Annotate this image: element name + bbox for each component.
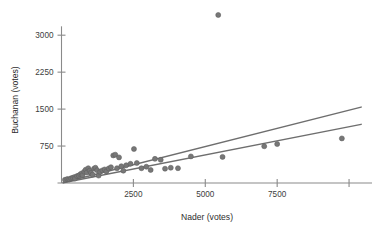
data-point xyxy=(220,154,225,159)
data-point xyxy=(216,12,221,17)
y-tick-label: 3000 xyxy=(35,31,54,40)
x-tick-label: 5000 xyxy=(196,190,215,199)
y-axis-title: Buchanan (votes) xyxy=(10,66,20,133)
data-point xyxy=(134,161,139,166)
x-axis-title: Nader (votes) xyxy=(181,212,233,222)
x-tick-label: 2500 xyxy=(124,190,143,199)
data-point xyxy=(148,167,153,172)
data-point xyxy=(144,164,149,169)
x-axis-ticks: 250050007500 xyxy=(124,179,349,199)
data-point xyxy=(168,165,173,170)
scatter-chart-figure: 750150022503000 250050007500 Nader (vote… xyxy=(0,0,375,228)
x-tick-label: 7500 xyxy=(268,190,287,199)
data-point xyxy=(339,136,344,141)
data-point xyxy=(175,166,180,171)
data-point xyxy=(90,172,95,177)
chart-canvas: 750150022503000 250050007500 Nader (vote… xyxy=(0,0,375,228)
data-point xyxy=(152,156,157,161)
lower-fit-line xyxy=(63,124,361,182)
data-point xyxy=(158,157,163,162)
data-point xyxy=(108,165,113,170)
data-point xyxy=(128,161,133,166)
y-tick-label: 2250 xyxy=(35,68,54,77)
axes xyxy=(58,26,373,183)
data-points xyxy=(62,12,344,182)
data-point xyxy=(139,166,144,171)
data-point xyxy=(163,166,168,171)
data-point xyxy=(117,155,122,160)
data-point xyxy=(188,154,193,159)
data-point xyxy=(131,147,136,152)
y-tick-label: 750 xyxy=(40,142,54,151)
data-point xyxy=(121,168,126,173)
data-point xyxy=(262,144,267,149)
data-point xyxy=(275,142,280,147)
y-tick-label: 1500 xyxy=(35,105,54,114)
